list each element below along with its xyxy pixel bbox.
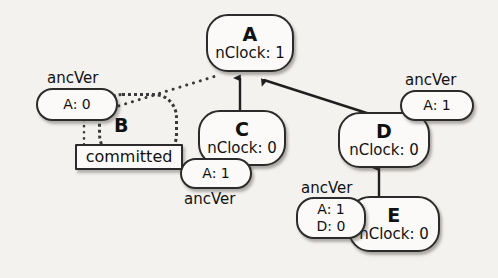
dotted-node-b-id: B: [114, 115, 128, 135]
node-layer: B committed ancVer A: 0 A nClock: 1 C nC…: [0, 0, 498, 278]
ancver-label-c: ancVer: [184, 191, 235, 207]
ancver-badge-d-line1: A: 1: [423, 97, 450, 114]
node-a-id: A: [242, 24, 257, 44]
ancver-badge-b[interactable]: A: 0: [36, 88, 118, 121]
node-a-clock: nClock: 1: [215, 44, 285, 62]
ancver-badge-b-line1: A: 0: [63, 96, 90, 113]
node-e-clock: nClock: 0: [359, 225, 429, 243]
ancver-label-e: ancVer: [301, 180, 352, 196]
ancver-badge-e-line2: D: 0: [317, 218, 346, 235]
ancver-badge-e[interactable]: A: 1 D: 0: [296, 197, 366, 239]
node-c-id: C: [235, 119, 249, 139]
ancver-label-b: ancVer: [47, 70, 98, 86]
node-d-clock: nClock: 0: [349, 141, 419, 159]
ancver-badge-e-line1: A: 1: [317, 201, 344, 218]
ancver-badge-c-line1: A: 1: [202, 165, 229, 182]
node-a[interactable]: A nClock: 1: [206, 14, 294, 72]
node-e-id: E: [387, 205, 400, 225]
committed-box[interactable]: committed: [75, 144, 183, 170]
ancver-label-d: ancVer: [405, 72, 456, 88]
node-c-clock: nClock: 0: [207, 139, 277, 157]
ancver-badge-d[interactable]: A: 1: [400, 90, 474, 121]
ancver-badge-c[interactable]: A: 1: [180, 158, 252, 189]
node-d-id: D: [376, 121, 392, 141]
diagram-canvas: B committed ancVer A: 0 A nClock: 1 C nC…: [0, 0, 498, 278]
